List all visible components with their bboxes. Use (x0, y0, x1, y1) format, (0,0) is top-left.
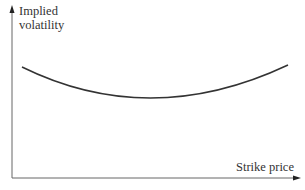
volatility-smile-curve (22, 65, 288, 98)
x-axis-label: Strike price (236, 160, 294, 174)
x-axis-arrow-icon (293, 176, 301, 181)
y-axis-arrow-icon (10, 5, 15, 13)
y-axis-label-line2: volatility (19, 18, 64, 32)
y-axis-label: Implied volatility (19, 4, 64, 32)
y-axis-label-line1: Implied (19, 4, 64, 18)
